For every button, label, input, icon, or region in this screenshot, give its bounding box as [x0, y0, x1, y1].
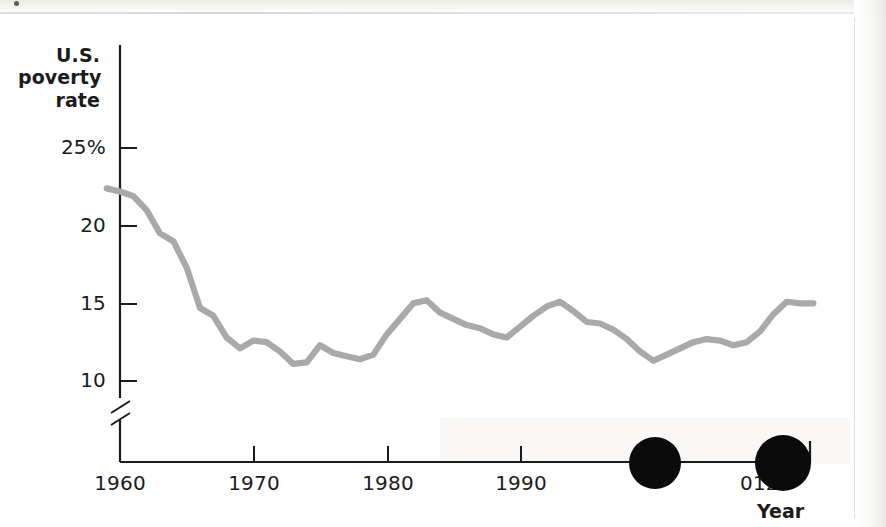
x-tick-marks: [120, 441, 655, 462]
y-tick-label-25: 25%: [28, 136, 106, 160]
chart-canvas: [0, 0, 886, 527]
chart-page: U.S. poverty rate 25% 20 15 10 1960 1970…: [0, 0, 886, 527]
y-axis-title-line-3: rate: [18, 89, 100, 111]
y-tick-marks: [120, 148, 137, 381]
y-axis-title: U.S. poverty rate: [18, 44, 100, 111]
x-tick-label-1970: 1970: [204, 472, 304, 496]
occluder-circle-2: [755, 435, 811, 491]
y-tick-label-15: 15: [28, 292, 106, 316]
x-tick-label-1980: 1980: [338, 472, 438, 496]
chart-plot-area: U.S. poverty rate 25% 20 15 10 1960 1970…: [0, 0, 886, 527]
x-axis-title: Year: [757, 500, 804, 522]
occluder-circle-1: [629, 437, 681, 489]
y-tick-label-20: 20: [28, 214, 106, 238]
x-tick-label-1960: 1960: [70, 472, 170, 496]
y-tick-label-10: 10: [28, 369, 106, 393]
poverty-rate-line: [107, 188, 814, 364]
y-axis-title-line-2: poverty: [18, 66, 100, 88]
x-tick-label-1990: 1990: [471, 472, 571, 496]
axis-break-slash-1: [111, 401, 130, 413]
y-axis-title-line-1: U.S.: [18, 44, 100, 66]
